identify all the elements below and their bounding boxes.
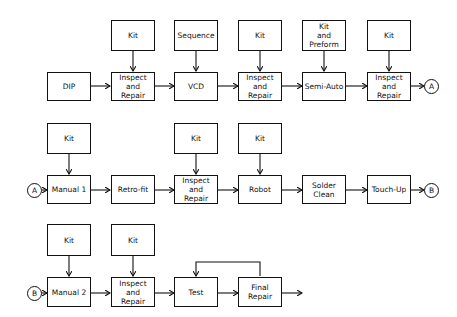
connector-b: B bbox=[424, 183, 439, 198]
input-sequence: Sequence bbox=[174, 20, 218, 51]
step-inspect-repair: Inspect and Repair bbox=[111, 72, 155, 101]
input-kit: Kit bbox=[111, 224, 155, 256]
input-kit: Kit bbox=[47, 224, 91, 256]
step-inspect-repair: Inspect and Repair bbox=[111, 277, 155, 307]
connector-b: B bbox=[27, 286, 42, 301]
step-inspect-repair: Inspect and Repair bbox=[367, 72, 411, 101]
step-final-repair: Final Repair bbox=[238, 277, 282, 307]
step-manual-2: Manual 2 bbox=[47, 277, 91, 307]
input-kit: Kit bbox=[174, 123, 218, 154]
step-robot: Robot bbox=[238, 175, 282, 204]
step-semi-auto: Semi-Auto bbox=[302, 72, 346, 101]
step-dip: DIP bbox=[47, 72, 91, 101]
input-kit: Kit bbox=[367, 20, 411, 51]
input-kit: Kit bbox=[238, 20, 282, 51]
connector-a: A bbox=[424, 79, 439, 94]
step-inspect-repair: Inspect and Repair bbox=[174, 175, 218, 204]
step-retro-fit: Retro-fit bbox=[111, 175, 155, 204]
step-inspect-repair: Inspect and Repair bbox=[238, 72, 282, 101]
input-kit-and-preform: Kit and Preform bbox=[302, 20, 346, 51]
input-kit: Kit bbox=[47, 123, 91, 154]
step-solder-clean: Solder Clean bbox=[302, 175, 346, 204]
step-touch-up: Touch-Up bbox=[367, 175, 411, 204]
step-vcd: VCD bbox=[174, 72, 218, 101]
input-kit: Kit bbox=[238, 123, 282, 154]
step-test: Test bbox=[174, 277, 218, 307]
connector-a: A bbox=[27, 183, 42, 198]
input-kit: Kit bbox=[111, 20, 155, 51]
step-manual-1: Manual 1 bbox=[47, 175, 91, 204]
